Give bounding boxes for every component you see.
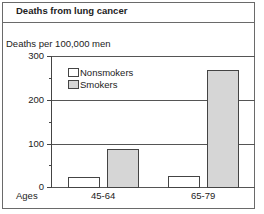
bar-nonsmokers-45-64 xyxy=(68,177,100,188)
y-tick-label-300: 300 xyxy=(20,50,44,61)
x-axis-label: Ages xyxy=(16,190,38,201)
nonsmokers-swatch-icon xyxy=(68,68,79,77)
legend-label-smokers: Smokers xyxy=(80,79,117,90)
chart-title: Deaths from lung cancer xyxy=(16,5,127,16)
gridline-300 xyxy=(51,56,255,57)
y-tick-200 xyxy=(47,100,51,101)
y-tick-300 xyxy=(47,56,51,57)
y-minor-tick-50 xyxy=(49,165,52,166)
y-axis-label: Deaths per 100,000 men xyxy=(6,38,111,49)
y-tick-100 xyxy=(47,144,51,145)
bar-smokers-45-64 xyxy=(107,149,139,188)
y-minor-tick-250 xyxy=(49,78,52,79)
y-tick-label-100: 100 xyxy=(20,138,44,149)
y-tick-label-200: 200 xyxy=(20,94,44,105)
bar-smokers-65-79 xyxy=(207,70,239,188)
bar-nonsmokers-65-79 xyxy=(168,176,200,188)
title-divider xyxy=(2,22,255,23)
legend: Nonsmokers Smokers xyxy=(68,66,133,90)
x-category-65-79: 65-79 xyxy=(191,190,215,201)
y-tick-0 xyxy=(47,187,51,188)
legend-label-nonsmokers: Nonsmokers xyxy=(80,67,133,78)
x-category-45-64: 45-64 xyxy=(91,190,115,201)
y-minor-tick-150 xyxy=(49,122,52,123)
smokers-swatch-icon xyxy=(68,80,79,89)
legend-item-smokers: Smokers xyxy=(68,78,133,90)
legend-item-nonsmokers: Nonsmokers xyxy=(68,66,133,78)
